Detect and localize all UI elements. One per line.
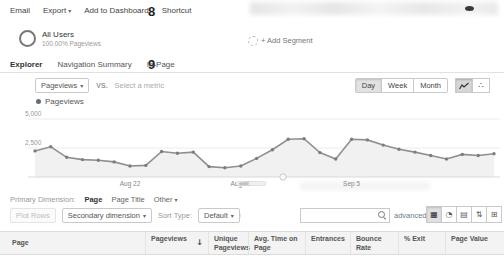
dimension-other[interactable]: Other ▾: [154, 195, 178, 204]
data-point[interactable]: [160, 150, 163, 153]
y-axis-label: 2,500: [25, 139, 42, 146]
dimension-page-title[interactable]: Page Title: [111, 195, 144, 204]
plot-rows-button[interactable]: Plot Rows: [10, 208, 56, 223]
caret-down-icon: ▾: [231, 212, 234, 219]
data-point[interactable]: [176, 152, 179, 155]
advanced-search-link[interactable]: advanced: [394, 211, 427, 220]
action-bar: Email Export ▾ Add to Dashboard Shortcut: [10, 6, 191, 15]
caret-down-icon: ▾: [175, 196, 178, 203]
data-point[interactable]: [239, 164, 242, 167]
x-axis-label: Sep 5: [343, 180, 360, 188]
data-point[interactable]: [382, 143, 385, 146]
data-point[interactable]: [112, 160, 115, 163]
add-segment-icon[interactable]: [248, 36, 258, 46]
sort-type-dropdown[interactable]: Default ▾: [198, 208, 240, 223]
table-view-icon: ▦: [430, 210, 438, 219]
timeline-scrubber[interactable]: [280, 174, 286, 180]
performance-view-icon: ▤: [460, 210, 468, 219]
search-icon[interactable]: [378, 211, 387, 220]
export-button[interactable]: Export ▾: [43, 6, 71, 15]
column-header-pageviews[interactable]: Pageviews ↓: [145, 232, 208, 254]
email-button[interactable]: Email: [10, 6, 30, 15]
motion-chart-button[interactable]: ∴: [472, 78, 490, 93]
data-point[interactable]: [302, 137, 305, 140]
data-point[interactable]: [318, 151, 321, 154]
data-point[interactable]: [271, 148, 274, 151]
segment-circle-icon[interactable]: [19, 30, 36, 47]
export-label: Export: [43, 6, 66, 15]
add-to-dashboard-button[interactable]: Add to Dashboard: [84, 6, 149, 15]
table-header-row: Page Pageviews ↓ Unique Pageviews Avg. T…: [0, 231, 504, 255]
data-point[interactable]: [255, 157, 258, 160]
view-comparison-button[interactable]: ⇅: [471, 206, 487, 223]
chart-legend: Pageviews: [36, 97, 84, 106]
data-point[interactable]: [128, 164, 131, 167]
legend-dot-icon: [36, 99, 41, 104]
dimension-other-label: Other: [154, 195, 173, 204]
data-point[interactable]: [413, 150, 416, 153]
x-axis-label: Aug 22: [120, 180, 141, 188]
mini-scrollbar-thumb[interactable]: [239, 182, 249, 185]
secondary-dimension-label: Secondary dimension: [68, 211, 140, 220]
primary-dimension-label: Primary Dimension:: [10, 195, 75, 204]
select-metric-button[interactable]: Select a metric: [115, 81, 165, 90]
metric-selector-dropdown[interactable]: Pageviews ▾: [35, 78, 89, 93]
data-point[interactable]: [65, 156, 68, 159]
line-chart-button[interactable]: [455, 78, 473, 93]
pageviews-area: [35, 139, 494, 177]
column-header-page-value[interactable]: Page Value: [445, 232, 504, 254]
tab-in-page[interactable]: In-Page: [147, 57, 175, 72]
column-header-avg-time-on-page[interactable]: Avg. Time on Page: [248, 232, 305, 254]
comparison-view-icon: ⇅: [476, 210, 483, 219]
data-point[interactable]: [49, 145, 52, 148]
granularity-week-button[interactable]: Week: [381, 78, 414, 93]
data-point[interactable]: [207, 165, 210, 168]
line-chart-icon: [459, 82, 469, 90]
column-header-page[interactable]: Page: [0, 232, 145, 254]
data-point[interactable]: [81, 158, 84, 161]
data-point[interactable]: [492, 152, 495, 155]
tab-explorer[interactable]: Explorer: [10, 57, 42, 72]
caret-down-icon: ▾: [80, 82, 83, 89]
data-point[interactable]: [223, 166, 226, 169]
pivot-view-icon: ⊞: [491, 210, 498, 219]
data-point[interactable]: [144, 164, 147, 167]
view-table-button[interactable]: ▦: [426, 206, 442, 223]
dimension-page[interactable]: Page: [84, 195, 102, 204]
segment-subtitle: 100.00% Pageviews: [42, 40, 101, 47]
add-segment-button[interactable]: + Add Segment: [261, 36, 313, 45]
data-point[interactable]: [97, 159, 100, 162]
view-performance-button[interactable]: ▤: [456, 206, 472, 223]
caret-down-icon: ▾: [143, 212, 146, 219]
column-header-bounce-rate[interactable]: Bounce Rate: [350, 232, 398, 254]
data-point[interactable]: [366, 138, 369, 141]
motion-chart-icon: ∴: [478, 81, 483, 90]
data-point[interactable]: [334, 157, 337, 160]
data-point[interactable]: [287, 138, 290, 141]
granularity-month-button[interactable]: Month: [413, 78, 448, 93]
metric-selector-label: Pageviews: [41, 81, 77, 90]
column-header-entrances[interactable]: Entrances: [305, 232, 350, 254]
data-point[interactable]: [350, 138, 353, 141]
data-point[interactable]: [192, 150, 195, 153]
granularity-day-button[interactable]: Day: [355, 78, 382, 93]
search-input[interactable]: [301, 210, 378, 221]
blurred-icon: [465, 6, 474, 11]
view-percentage-button[interactable]: ◔: [441, 206, 457, 223]
data-point[interactable]: [461, 153, 464, 156]
data-point[interactable]: [397, 148, 400, 151]
data-point[interactable]: [445, 157, 448, 160]
table-view-buttons: ▦ ◔ ▤ ⇅ ⊞: [427, 206, 502, 223]
tab-navigation-summary[interactable]: Navigation Summary: [57, 57, 131, 72]
shortcut-button[interactable]: Shortcut: [162, 6, 192, 15]
view-pivot-button[interactable]: ⊞: [486, 206, 502, 223]
blur-artifact: [250, 2, 498, 15]
data-point[interactable]: [33, 149, 36, 152]
column-header-percent-exit[interactable]: % Exit: [398, 232, 445, 254]
column-header-unique-pageviews[interactable]: Unique Pageviews: [208, 232, 248, 254]
data-point[interactable]: [429, 154, 432, 157]
segment-title[interactable]: All Users: [42, 30, 74, 39]
data-point[interactable]: [477, 154, 480, 157]
secondary-dimension-button[interactable]: Secondary dimension ▾: [62, 208, 152, 223]
percentage-view-icon: ◔: [446, 210, 453, 219]
